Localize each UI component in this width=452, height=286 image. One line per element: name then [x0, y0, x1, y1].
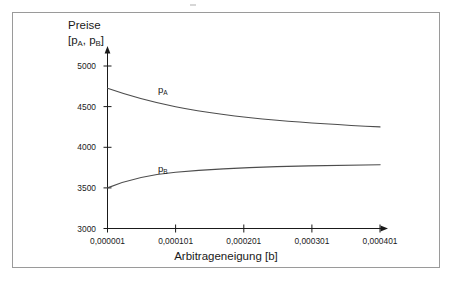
y-axis-title: Preise [pA, pB] [68, 19, 104, 47]
series-label-pB: pB [158, 163, 168, 174]
y-axis [105, 46, 111, 229]
x-axis-title: Arbitrageneigung [b] [0, 250, 452, 264]
x-tick-label: 0,000301 [282, 236, 342, 246]
y-tick-label: 4500 [62, 102, 96, 112]
y-axis-title-units: [pA, pB] [68, 34, 104, 48]
y-tick-label: 5000 [62, 61, 96, 71]
y-axis-title-text: Preise [68, 19, 101, 31]
x-tick-label: 0,000401 [350, 236, 410, 246]
y-tick-label: 3000 [62, 224, 96, 234]
series-line-pA [108, 88, 381, 127]
y-tick-label: 4000 [62, 142, 96, 152]
y-tick-label: 3500 [62, 183, 96, 193]
x-tick-label: 0,000101 [146, 236, 206, 246]
x-tick-label: 0,000001 [78, 236, 138, 246]
x-axis [108, 226, 389, 232]
x-tick-label: 0,000201 [214, 236, 274, 246]
series-label-pA: pA [158, 84, 168, 95]
series-line-pB [108, 165, 381, 188]
chart-figure: Preise [pA, pB] Arbitrageneigung [b] 500… [0, 0, 452, 286]
